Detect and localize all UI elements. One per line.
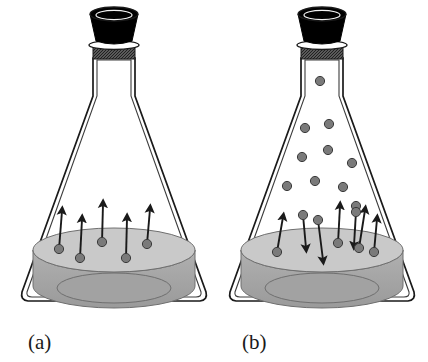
panel-label-a: (a) <box>28 330 51 354</box>
molecule <box>354 243 363 252</box>
stopper-b <box>297 7 347 59</box>
molecule <box>298 210 307 219</box>
molecule <box>310 176 319 185</box>
molecule <box>272 247 281 256</box>
evaporation-arrow <box>126 218 127 258</box>
molecule <box>333 238 342 247</box>
flask-base-ellipse-a <box>57 273 171 303</box>
molecule <box>369 247 378 256</box>
molecule <box>338 182 347 191</box>
panel-label-b: (b) <box>242 330 267 354</box>
flask-equilibrium-figure: (a) <box>0 0 428 362</box>
stopper-a <box>89 7 139 59</box>
liquid-b <box>241 228 403 308</box>
evaporation-arrow <box>102 204 103 242</box>
molecule <box>323 145 332 154</box>
molecule <box>313 215 322 224</box>
molecule <box>97 237 106 246</box>
molecule <box>142 239 151 248</box>
molecule <box>54 244 63 253</box>
molecule <box>300 123 309 132</box>
molecule <box>75 253 84 262</box>
molecule <box>315 76 324 85</box>
molecule <box>282 181 291 190</box>
molecule <box>351 207 360 216</box>
liquid-a <box>33 228 195 308</box>
flask-base-ellipse-b <box>265 273 379 303</box>
molecule <box>121 253 130 262</box>
molecule <box>324 119 333 128</box>
molecule <box>297 152 306 161</box>
molecule <box>347 158 356 167</box>
